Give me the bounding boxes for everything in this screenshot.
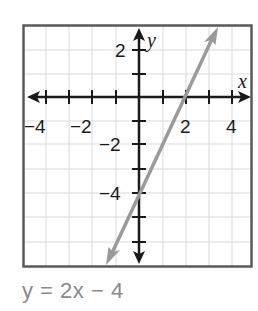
y-tick-label-neg4: −4 [99,183,121,204]
y-tick-label-2: 2 [115,40,126,61]
y-axis [132,28,146,264]
coordinate-graph: y x −4 −2 2 4 2 −2 −4 [0,0,258,311]
x-tick-label-neg2: −2 [70,116,92,137]
x-tick-label-4: 4 [226,116,237,137]
grid [23,26,252,267]
equation-caption: y = 2x − 4 [22,278,124,304]
graph-frame [24,26,252,267]
x-tick-label-2: 2 [180,116,191,137]
plotted-line [106,27,218,265]
y-axis-label: y [145,29,156,52]
y-tick-label-neg2: −2 [99,134,121,155]
x-tick-label-neg4: −4 [24,116,46,137]
x-axis-label: x [237,70,247,92]
